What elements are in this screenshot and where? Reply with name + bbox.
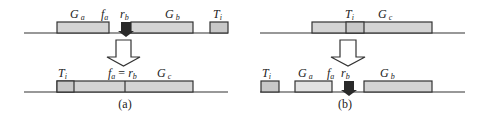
block-gb-a: [131, 22, 193, 33]
block-merged-b: [312, 22, 432, 33]
dark-arrow-icon: [341, 81, 357, 96]
label-fa-eq-rb: fa = rb: [108, 66, 137, 81]
label-gc-after: Gc: [157, 66, 172, 81]
label-gb-b: Gb: [380, 66, 395, 81]
caption-b: (b): [338, 97, 352, 111]
label-ga-b: Ga: [298, 66, 313, 81]
panel-a: Ga fa rb Gb Ti Ti fa = rb Gc (a): [24, 7, 228, 111]
label-rb: rb: [120, 7, 129, 22]
block-gb-b: [364, 81, 432, 92]
label-ti-b-after: Ti: [262, 66, 271, 81]
block-ti-b-after: [261, 81, 279, 92]
block-ti-a-after: [57, 81, 74, 92]
diagram-canvas: Ga fa rb Gb Ti Ti fa = rb Gc (a) Ti Gc T…: [0, 0, 490, 118]
label-gc-b: Gc: [378, 7, 393, 22]
block-ga-b: [295, 81, 332, 92]
caption-a: (a): [118, 97, 131, 111]
label-ga: Ga: [70, 7, 85, 22]
hollow-down-arrow-icon: [107, 40, 140, 66]
panel-b: Ti Gc Ti Ga fa rb Gb (b): [260, 7, 465, 111]
block-ga-a: [57, 22, 109, 33]
label-fa-b: fa: [327, 66, 334, 81]
label-gb: Gb: [165, 7, 180, 22]
hollow-down-arrow-icon: [331, 40, 365, 66]
label-fa: fa: [101, 7, 108, 22]
label-ti: Ti: [213, 7, 222, 22]
block-ti-a: [210, 22, 228, 33]
label-ti-b: Ti: [345, 7, 354, 22]
label-ti-after: Ti: [58, 66, 67, 81]
label-rb-b: rb: [341, 66, 350, 81]
block-ti-b: [346, 22, 364, 33]
